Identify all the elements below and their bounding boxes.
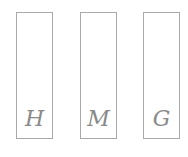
letter-m: M <box>81 106 116 132</box>
letter-h: H <box>17 106 52 132</box>
letter-box-g: G <box>143 12 180 139</box>
letter-box-h: H <box>16 12 53 139</box>
letter-g: G <box>144 106 179 132</box>
letter-box-m: M <box>80 12 117 139</box>
